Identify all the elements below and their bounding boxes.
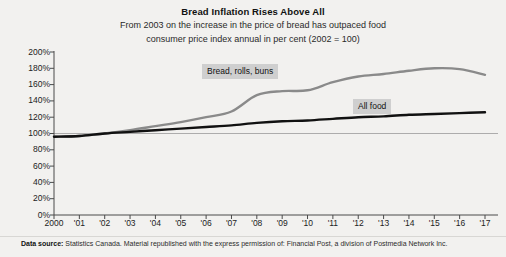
x-axis-tick-label: '11 <box>328 218 338 228</box>
series-line-all-food <box>54 112 485 136</box>
source-label: Data source: <box>21 240 63 247</box>
source-note: Data source: Statistics Canada. Material… <box>21 239 447 249</box>
x-axis-tick-label: '05 <box>175 218 186 228</box>
x-axis-tick-label: '09 <box>277 218 288 228</box>
series-label-all-food: All food <box>353 99 391 114</box>
x-axis-tick-label: '03 <box>125 218 136 228</box>
chart-footer: Data source: Statistics Canada. Material… <box>0 236 506 257</box>
y-axis-tick-label: 60% <box>33 162 50 171</box>
y-axis-tick-label: 160% <box>28 80 50 89</box>
x-axis-tick-label: '12 <box>353 218 364 228</box>
x-axis-tick-label: 2000 <box>45 218 64 228</box>
y-axis-tick-labels: 0%20%40%60%80%100%120%140%160%180%200% <box>8 0 50 240</box>
x-axis-tick-label: '13 <box>378 218 389 228</box>
x-axis-tick-label: '16 <box>454 218 465 228</box>
y-axis-tick-label: 120% <box>28 113 50 122</box>
y-axis-tick-label: 140% <box>28 96 50 105</box>
x-axis-tick-labels: 2000'01'02'03'04'05'06'07'08'09'10'11'12… <box>0 218 506 232</box>
x-axis-tick-label: '14 <box>403 218 414 228</box>
x-axis-tick-label: '10 <box>302 218 313 228</box>
x-axis-tick-label: '17 <box>479 218 490 228</box>
y-axis-tick-label: 80% <box>33 145 50 154</box>
y-axis-tick-label: 40% <box>33 178 50 187</box>
footer-divider <box>0 236 506 237</box>
x-axis-tick-label: '04 <box>150 218 161 228</box>
x-axis-tick-label: '02 <box>99 218 110 228</box>
y-axis-tick-label: 200% <box>28 48 50 57</box>
x-axis-tick-label: '07 <box>226 218 237 228</box>
line-chart-svg <box>0 0 506 240</box>
y-axis-tick-label: 180% <box>28 64 50 73</box>
x-axis-tick-label: '06 <box>201 218 212 228</box>
y-axis-tick-label: 100% <box>28 129 50 138</box>
series-label-bread: Bread, rolls, buns <box>202 64 278 79</box>
chart-page: Bread Inflation Rises Above All From 200… <box>0 0 506 257</box>
x-axis-tick-label: '08 <box>251 218 262 228</box>
plot-area: 0%20%40%60%80%100%120%140%160%180%200% 2… <box>0 0 506 240</box>
y-axis-tick-label: 20% <box>33 194 50 203</box>
x-axis-tick-label: '15 <box>429 218 440 228</box>
source-text: Statistics Canada. Material republished … <box>63 240 447 247</box>
x-axis-tick-label: '01 <box>74 218 85 228</box>
